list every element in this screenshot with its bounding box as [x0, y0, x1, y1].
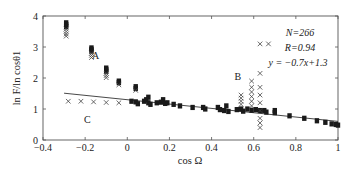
- cross-marker: [249, 104, 254, 109]
- cross-marker: [258, 71, 263, 76]
- filled-marker: [222, 108, 226, 113]
- cross-marker: [249, 79, 254, 84]
- cross-marker: [104, 100, 109, 105]
- cross-marker: [258, 42, 263, 47]
- cross-marker: [64, 29, 69, 34]
- cross-marker: [258, 101, 263, 106]
- filled-marker: [249, 108, 253, 113]
- x-tick-label: 0.2: [163, 142, 176, 153]
- y-tick-label: 3: [33, 42, 38, 53]
- filled-marker: [287, 113, 291, 118]
- y-tick-label: 2: [33, 73, 38, 84]
- filled-marker: [245, 106, 249, 111]
- cross-marker: [249, 90, 254, 95]
- cross-marker: [258, 85, 263, 90]
- x-axis-title: cos Ω: [178, 155, 203, 166]
- filled-marker: [148, 102, 152, 107]
- annotation-fit-equation: y = −0.7x+1.3: [267, 57, 327, 68]
- x-tick-label: 0.4: [205, 142, 218, 153]
- filled-marker: [226, 109, 230, 114]
- filled-marker: [254, 107, 258, 112]
- cross-marker: [258, 125, 263, 130]
- x-tick-label: −0.2: [76, 142, 94, 153]
- filled-marker: [218, 107, 222, 112]
- filled-marker: [178, 103, 182, 108]
- filled-marker: [190, 105, 194, 110]
- filled-marker: [64, 24, 68, 29]
- filled-marker: [136, 101, 140, 106]
- filled-marker: [235, 107, 239, 112]
- x-tick-label: 0.8: [290, 142, 303, 153]
- filled-marker: [155, 100, 159, 105]
- y-tick-label: 0: [33, 135, 38, 146]
- cross-marker: [249, 99, 254, 104]
- cross-marker: [258, 121, 263, 126]
- filled-marker: [323, 120, 327, 125]
- filled-marker: [165, 100, 169, 105]
- cross-marker: [79, 99, 84, 104]
- x-tick-label: 0.6: [247, 142, 260, 153]
- scatter-chart: −0.4−0.200.20.40.60.8101234 ABC N=266 R=…: [0, 0, 351, 174]
- annotation-n: N=266: [285, 27, 314, 38]
- y-tick-label: 1: [33, 104, 38, 115]
- filled-marker: [171, 102, 175, 107]
- cross-marker: [66, 99, 71, 104]
- cross-marker: [117, 101, 122, 106]
- filled-marker: [224, 103, 228, 108]
- cross-marker: [266, 42, 271, 47]
- cross-marker: [249, 85, 254, 90]
- filled-marker: [203, 106, 207, 111]
- filled-marker: [302, 116, 306, 121]
- filled-marker: [329, 121, 333, 126]
- cross-marker: [91, 100, 96, 105]
- cross-marker: [239, 102, 244, 107]
- cross-marker: [258, 116, 263, 121]
- filled-marker: [241, 109, 245, 114]
- x-tick-label: 0: [125, 142, 130, 153]
- filled-marker: [146, 95, 150, 100]
- filled-marker: [336, 123, 340, 128]
- filled-marker: [273, 110, 277, 115]
- group-label-c: C: [84, 114, 91, 125]
- filled-marker: [129, 99, 133, 104]
- filled-marker: [315, 118, 319, 123]
- filled-marker: [264, 110, 268, 115]
- group-label-a: A: [92, 50, 100, 61]
- cross-marker: [249, 94, 254, 99]
- annotation-r: R=0.94: [284, 42, 315, 53]
- cross-marker: [258, 93, 263, 98]
- y-tick-label: 4: [33, 11, 38, 22]
- x-tick-label: 1: [336, 142, 341, 153]
- y-axis-title: ln F/ln cosθ1: [11, 51, 22, 106]
- group-label-b: B: [235, 71, 242, 82]
- group-labels: ABC: [84, 50, 242, 125]
